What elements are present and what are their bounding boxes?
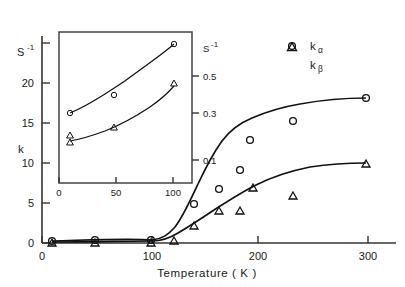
y-ticklabel-0: 0 xyxy=(28,237,34,249)
legend-subscript-beta: β xyxy=(318,64,323,74)
y-ticklabel-10: 10 xyxy=(22,157,34,169)
legend-label-k-beta: k xyxy=(310,59,316,71)
rate-constant-temperature-chart: 0 5 10 15 20 S -1 k 0 100 200 300 Temper… xyxy=(0,0,405,287)
y-axis-unit-base: S xyxy=(17,46,24,58)
legend-subscript-alpha: α xyxy=(318,45,323,55)
inset-y-ticklabel-0.3: 0.3 xyxy=(203,108,216,119)
y-ticklabel-15: 15 xyxy=(22,117,34,129)
y-ticklabel-20: 20 xyxy=(22,77,34,89)
inset-y-ticklabel-0.1: 0.1 xyxy=(203,155,216,166)
x-ticklabel-200: 200 xyxy=(249,250,267,262)
x-axis-title: Temperature ( K ) xyxy=(157,267,257,279)
figure-container: 0 5 10 15 20 S -1 k 0 100 200 300 Temper… xyxy=(0,0,405,287)
legend-label-k-alpha: k xyxy=(310,40,316,52)
inset-y-unit-base: S xyxy=(203,43,209,54)
inset-x-ticklabel-0: 0 xyxy=(56,187,61,198)
inset-y-unit-exponent: -1 xyxy=(211,40,219,49)
inset-x-ticklabel-50: 50 xyxy=(111,187,122,198)
y-axis-title: k xyxy=(18,143,24,155)
x-ticklabel-0: 0 xyxy=(39,250,45,262)
inset-y-ticklabel-0.5: 0.5 xyxy=(203,71,216,82)
x-ticklabel-300: 300 xyxy=(359,250,377,262)
x-ticklabel-100: 100 xyxy=(143,250,161,262)
y-axis-unit-exponent: -1 xyxy=(27,43,35,52)
inset-frame xyxy=(59,32,192,183)
inset-x-ticklabel-100: 100 xyxy=(165,187,181,198)
y-ticklabel-5: 5 xyxy=(28,197,34,209)
